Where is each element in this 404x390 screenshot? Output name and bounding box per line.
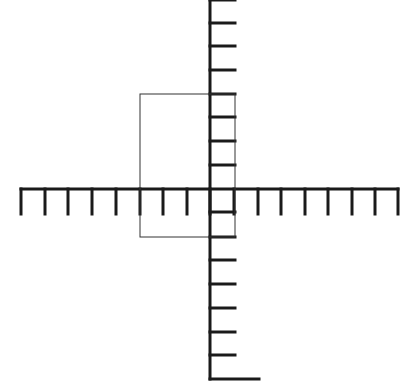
coordinate-diagram xyxy=(0,0,404,390)
